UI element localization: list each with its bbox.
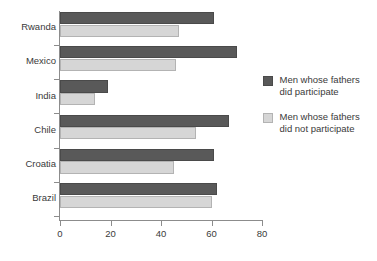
category-label: Croatia: [0, 158, 56, 169]
x-axis-tick: [212, 221, 213, 226]
legend-swatch-light-icon: [263, 113, 273, 123]
y-axis-tick: [54, 79, 60, 80]
x-axis-tick: [161, 221, 162, 226]
y-axis-tick: [54, 216, 60, 217]
bar-group: [60, 46, 262, 71]
x-axis-tick: [111, 221, 112, 226]
x-axis-tick-label: 40: [146, 228, 176, 239]
plot-area: [60, 12, 262, 220]
bar-group: [60, 80, 262, 105]
bar-fathers-not-participated: [60, 127, 196, 139]
bar-fathers-not-participated: [60, 93, 95, 105]
bar-fathers-not-participated: [60, 196, 212, 208]
bar-fathers-not-participated: [60, 25, 179, 37]
x-axis-tick: [262, 221, 263, 226]
category-label: Mexico: [0, 55, 56, 66]
legend-label: Men whose fathers did not participate: [280, 111, 360, 134]
category-axis-labels: RwandaMexicoIndiaChileCroatiaBrazil: [0, 0, 56, 261]
x-axis-tick-label: 60: [197, 228, 227, 239]
bar-group: [60, 149, 262, 174]
x-axis-tick-label: 0: [45, 228, 75, 239]
category-label: Brazil: [0, 192, 56, 203]
x-axis-tick-label: 20: [96, 228, 126, 239]
x-axis-tick: [60, 221, 61, 226]
bar-group: [60, 12, 262, 37]
x-axis-tick-label: 80: [247, 228, 277, 239]
legend-entry: Men whose fathers did not participate: [263, 111, 377, 134]
bar-fathers-participated: [60, 46, 237, 58]
bar-group: [60, 115, 262, 140]
legend-entry: Men whose fathers did participate: [263, 74, 377, 97]
y-axis-tick: [54, 182, 60, 183]
chart-legend: Men whose fathers did participateMen who…: [263, 74, 377, 148]
category-label: India: [0, 90, 56, 101]
y-axis-tick: [54, 148, 60, 149]
category-label: Chile: [0, 124, 56, 135]
bar-chart: RwandaMexicoIndiaChileCroatiaBrazil 0204…: [0, 0, 377, 261]
y-axis-tick: [54, 113, 60, 114]
legend-label: Men whose fathers did participate: [280, 74, 360, 97]
category-label: Rwanda: [0, 21, 56, 32]
bar-fathers-participated: [60, 149, 214, 161]
bar-fathers-participated: [60, 80, 108, 92]
bar-fathers-not-participated: [60, 59, 176, 71]
bar-fathers-participated: [60, 12, 214, 24]
y-axis-tick: [54, 45, 60, 46]
legend-swatch-dark-icon: [263, 76, 273, 86]
bar-fathers-participated: [60, 115, 229, 127]
bar-group: [60, 183, 262, 208]
bar-fathers-not-participated: [60, 161, 174, 173]
bar-fathers-participated: [60, 183, 217, 195]
